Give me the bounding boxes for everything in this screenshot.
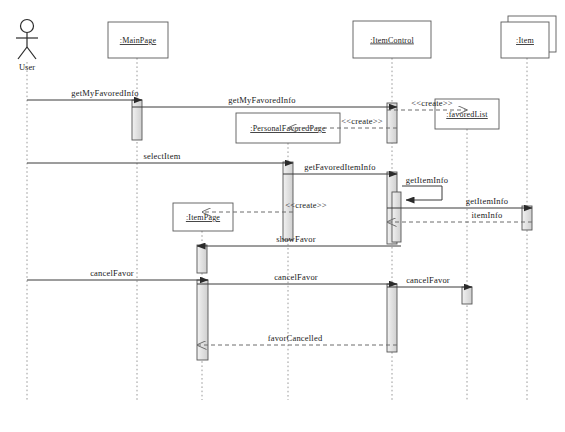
message-m2: getMyFavoredInfo: [132, 95, 397, 107]
message-label: getMyFavoredInfo: [228, 95, 295, 105]
message-label: getItemInfo: [466, 196, 508, 206]
message-m13: cancelFavor: [197, 272, 397, 284]
message-m7: getItemInfo: [402, 175, 448, 200]
message-m14: cancelFavor: [387, 275, 472, 287]
message-m6: getFavoredItemInfo: [283, 162, 397, 174]
activation-bar-item: [522, 206, 532, 230]
message-label: showFavor: [276, 234, 316, 244]
lifeline-box-itempage[interactable]: :ItemPage: [173, 203, 233, 231]
message-m12: cancelFavor: [27, 268, 208, 280]
message-label: getFavoredItemInfo: [304, 162, 376, 172]
lifeline-label-item: :Item: [516, 36, 534, 45]
message-m11: showFavor: [197, 234, 401, 246]
message-label: cancelFavor: [90, 268, 134, 278]
message-label: <<create>>: [285, 200, 326, 210]
activation-bar-itemcontrol: [392, 192, 401, 242]
message-label: <<create>>: [341, 116, 382, 126]
activation-bar-favoredlist: [462, 287, 472, 304]
self-message-line: [402, 186, 442, 200]
lifeline-box-item[interactable]: :Item: [501, 16, 556, 58]
message-label: favorCancelled: [268, 333, 323, 343]
message-m8: getItemInfo: [387, 196, 532, 208]
sequence-diagram-canvas: :MainPage:ItemPage:PersonalFavoredPage:I…: [0, 0, 565, 432]
activation-bar-itempage: [197, 280, 208, 360]
message-m9: itemInfo: [387, 210, 532, 222]
lifeline-label-itempage: :ItemPage: [186, 213, 220, 222]
message-m5: selectItem: [27, 151, 293, 163]
message-label: <<create>>: [411, 98, 452, 108]
message-label: selectItem: [144, 151, 181, 161]
activation-bar-mainpage: [132, 100, 142, 140]
message-label: cancelFavor: [274, 272, 318, 282]
uml-sequence-diagram: :MainPage:ItemPage:PersonalFavoredPage:I…: [0, 0, 565, 432]
actor-label: User: [19, 62, 35, 72]
activation-bar-itemcontrol: [387, 284, 397, 352]
lifeline-box-itemcontrol[interactable]: :ItemControl: [353, 21, 431, 58]
message-m1: getMyFavoredInfo: [27, 88, 142, 100]
lifeline-label-favoredlist: :favoredList: [446, 110, 488, 119]
message-label: getItemInfo: [406, 175, 448, 185]
lifeline-box-mainpage[interactable]: :MainPage: [108, 22, 168, 58]
activation-bar-itemcontrol: [387, 103, 397, 143]
message-label: cancelFavor: [406, 275, 450, 285]
lifeline-label-mainpage: :MainPage: [120, 36, 157, 45]
message-m15: favorCancelled: [197, 333, 397, 345]
message-label: itemInfo: [472, 210, 503, 220]
message-label: getMyFavoredInfo: [71, 88, 138, 98]
stick-figure-actor-icon: User: [16, 20, 38, 73]
lifeline-label-itemcontrol: :ItemControl: [370, 36, 414, 45]
activation-bar-itempage: [197, 245, 207, 273]
